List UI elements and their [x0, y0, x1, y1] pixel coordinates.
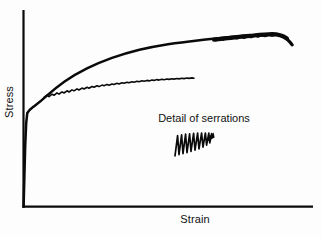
- serration-detail: [175, 133, 215, 156]
- strain-axis-label: Strain: [135, 213, 255, 225]
- detail-of-serrations-caption: Detail of serrations: [148, 112, 260, 124]
- axis-lines: [22, 10, 313, 208]
- stress-strain-figure: Stress Strain Detail of serrations: [0, 0, 322, 237]
- serration-detail-trace: [175, 133, 212, 156]
- stress-axis-label: Stress: [3, 80, 15, 124]
